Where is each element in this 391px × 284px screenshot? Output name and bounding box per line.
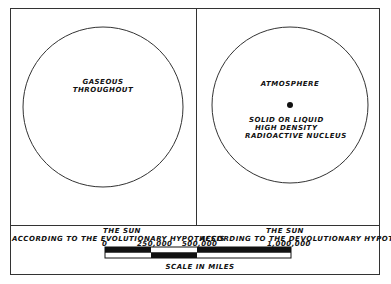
nucleus-label-line1: SOLID OR LIQUID (249, 116, 330, 124)
scale-bar (105, 247, 291, 258)
left-caption-line1: THE SUN (52, 227, 192, 235)
scale-tick-0: 0 (102, 240, 107, 248)
nucleus-label: SOLID OR LIQUID HIGH DENSITY RADIOACTIVE… (250, 116, 330, 140)
right-caption-line1: THE SUN (190, 227, 380, 235)
gaseous-label: GASEOUS THROUGHOUT (63, 78, 143, 94)
atmosphere-label: ATMOSPHERE (250, 80, 330, 88)
evolutionary-sun-circle (23, 27, 183, 187)
nucleus-label-line3: RADIOACTIVE NUCLEUS (245, 132, 330, 140)
gaseous-label-line2: THROUGHOUT (63, 86, 143, 94)
nucleus-label-line2: HIGH DENSITY (255, 124, 330, 132)
gaseous-label-line1: GASEOUS (63, 78, 143, 86)
scale-tick-500000: 500,000 (182, 240, 217, 248)
scale-title: SCALE IN MILES (155, 263, 245, 271)
scale-tick-1000000: 1,000,000 (267, 240, 311, 248)
scale-tick-250000: 250,000 (137, 240, 172, 248)
nucleus-dot (287, 102, 293, 108)
